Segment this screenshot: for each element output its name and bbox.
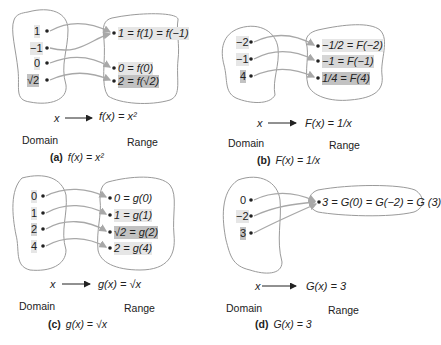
- range-label: Range: [328, 304, 359, 316]
- rule-input: x: [255, 280, 261, 293]
- domain-label: Domain: [228, 137, 264, 149]
- rule-output: g(x) = √x: [98, 278, 141, 291]
- domain-value: 1: [34, 25, 40, 38]
- range-value: −1 = F(−1): [322, 55, 374, 68]
- caption-c: (c)g(x) = √x: [48, 318, 107, 330]
- range-value: 1 = f(1) = f(−1): [118, 27, 189, 40]
- range-value: 3 = G(0) = G(−2) = G (3): [322, 196, 441, 209]
- domain-value: 4: [240, 70, 246, 83]
- rule-output: G(x) = 3: [306, 280, 346, 293]
- range-value: 1/4 = F(4): [322, 72, 370, 85]
- domain-value: 0: [240, 194, 246, 207]
- domain-blob-d: [223, 177, 282, 273]
- domain-value: 0: [31, 190, 37, 203]
- domain-value: 3: [240, 227, 246, 240]
- range-value: 1 = g(1): [114, 209, 152, 222]
- domain-value: −2: [236, 36, 249, 49]
- caption-b: (b)F(x) = 1/x: [257, 154, 320, 166]
- range-label: Range: [329, 139, 360, 151]
- range-value: 0 = f(0): [118, 62, 153, 75]
- domain-label: Domain: [19, 300, 55, 312]
- range-value: √2 = g(2): [114, 226, 158, 239]
- range-value: 0 = g(0): [114, 192, 152, 205]
- caption-a: (a)f(x) = x²: [50, 151, 104, 163]
- panel-d-shapes: [223, 177, 422, 286]
- rule-input: x: [54, 112, 60, 125]
- rule-output: F(x) = 1/x: [305, 117, 352, 130]
- range-value: 2 = f(√2): [118, 75, 159, 88]
- rule-input: x: [257, 117, 263, 130]
- range-label: Range: [127, 136, 158, 148]
- range-label: Range: [124, 302, 155, 314]
- domain-value: 2: [31, 223, 37, 236]
- domain-blob-c: [13, 176, 66, 271]
- domain-blob-a: [13, 10, 68, 103]
- domain-value: √2: [27, 74, 39, 87]
- domain-value: −2: [236, 210, 249, 223]
- domain-value: 0: [34, 57, 40, 70]
- rule-input: x: [50, 278, 56, 291]
- range-value: 2 = g(4): [114, 242, 152, 255]
- domain-value: −1: [30, 42, 43, 55]
- domain-label: Domain: [22, 134, 58, 146]
- range-value: −1/2 = F(−2): [322, 39, 383, 52]
- domain-blob-b: [222, 26, 278, 102]
- domain-value: −1: [236, 53, 249, 66]
- rule-output: f(x) = x²: [99, 110, 137, 123]
- caption-d: (d)G(x) = 3: [255, 318, 312, 330]
- domain-label: Domain: [226, 302, 262, 314]
- domain-value: 1: [31, 207, 37, 220]
- domain-value: 4: [31, 240, 37, 253]
